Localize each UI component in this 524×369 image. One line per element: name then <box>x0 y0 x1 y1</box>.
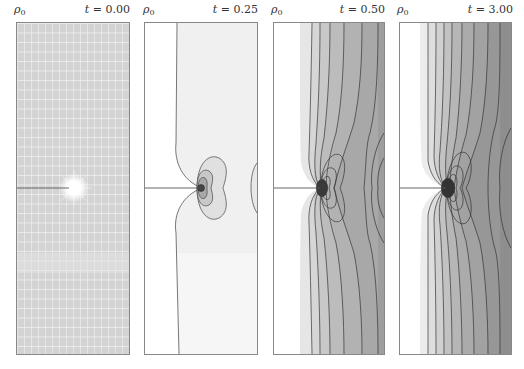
rho-subscript: 0 <box>149 8 154 17</box>
rho-subscript: 0 <box>277 8 282 17</box>
time-value: 0.25 <box>234 3 259 16</box>
time-prefix: t = <box>85 3 106 16</box>
time-prefix: t = <box>468 3 489 16</box>
rho-subscript: 0 <box>403 8 408 17</box>
time-value: 0.00 <box>106 3 131 16</box>
contour-plot <box>400 23 511 354</box>
panel-1-time-label: t = 0.00 <box>84 3 130 16</box>
contour-plot <box>274 23 384 354</box>
panel-3-time-label: t = 0.50 <box>337 3 385 16</box>
panel-4-time-label: t = 3.00 <box>463 3 513 16</box>
time-prefix: t = <box>340 3 361 16</box>
panel-2-density-label: ρ0 <box>143 3 155 17</box>
panel-2-contour <box>144 22 258 355</box>
time-value: 0.50 <box>361 3 386 16</box>
rho-subscript: 0 <box>20 8 25 17</box>
time-prefix: t = <box>213 3 234 16</box>
mesh-grid-plot <box>17 23 129 354</box>
panel-1-mesh <box>16 22 130 355</box>
time-value: 3.00 <box>489 3 514 16</box>
panel-3-density-label: ρ0 <box>271 3 283 17</box>
panel-3-contour <box>273 22 385 355</box>
contour-plot <box>145 23 257 354</box>
panel-2-time-label: t = 0.25 <box>210 3 258 16</box>
panel-4-contour <box>399 22 512 355</box>
panel-4-density-label: ρ0 <box>397 3 409 17</box>
panel-1-density-label: ρ0 <box>14 3 26 17</box>
